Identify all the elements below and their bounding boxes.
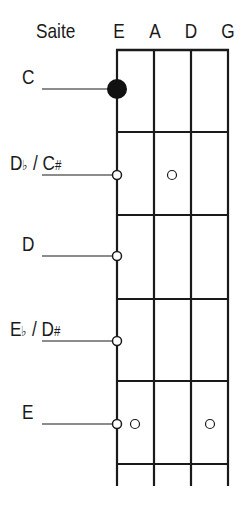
fretboard-diagram — [0, 0, 242, 510]
reference-dot — [206, 420, 215, 429]
reference-dot — [168, 171, 177, 180]
open-string-c-marker — [107, 79, 127, 99]
reference-dot — [131, 420, 140, 429]
marker-db — [113, 171, 122, 180]
leader-lines — [42, 89, 113, 424]
marker-e — [113, 420, 122, 429]
marker-d — [113, 252, 122, 261]
marker-eb — [113, 337, 122, 346]
